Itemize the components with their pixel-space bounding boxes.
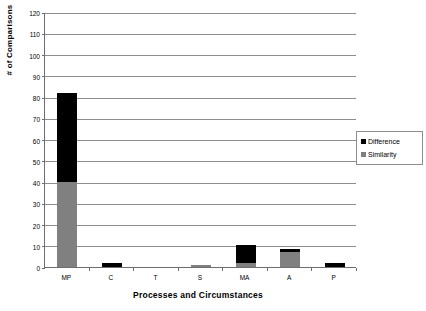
x-axis-label-s: S	[198, 274, 202, 282]
y-axis-tick-label: 30	[14, 201, 40, 208]
x-axis-tick-mark	[133, 268, 134, 271]
x-axis-label-c: C	[108, 274, 113, 282]
y-axis-tick-mark	[42, 204, 45, 205]
x-axis-tick-mark	[267, 268, 268, 271]
y-axis-tick-label: 110	[14, 31, 40, 38]
bar-segment-difference[interactable]	[57, 93, 77, 182]
bar-segment-similarity[interactable]	[236, 263, 256, 267]
x-axis-title: Processes and Circumstances	[40, 290, 356, 300]
bar-segment-similarity[interactable]	[280, 252, 300, 267]
y-axis-tick-mark	[42, 161, 45, 162]
x-axis-label-p: P	[332, 274, 336, 282]
x-axis-label-a: A	[287, 274, 291, 282]
y-axis-tick-mark	[42, 76, 45, 77]
bar-segment-similarity[interactable]	[57, 182, 77, 267]
legend-swatch-similarity	[361, 152, 366, 157]
bar-p[interactable]	[325, 12, 345, 267]
y-axis-tick-label: 20	[14, 222, 40, 229]
x-axis-label-ma: MA	[240, 274, 250, 282]
bar-ma[interactable]	[236, 12, 256, 267]
bar-s[interactable]	[191, 12, 211, 267]
legend: Difference Similarity	[356, 131, 423, 165]
bar-a[interactable]	[280, 12, 300, 267]
y-axis-tick-label: 80	[14, 95, 40, 102]
y-axis-tick-mark	[42, 140, 45, 141]
y-axis-tick-mark	[42, 183, 45, 184]
y-axis-tick-mark	[42, 55, 45, 56]
x-axis-label-mp: MP	[61, 274, 71, 282]
x-axis-tick-mark	[89, 268, 90, 271]
y-axis-tick-label: 50	[14, 158, 40, 165]
x-axis-tick-marks	[44, 268, 356, 272]
legend-item-similarity: Similarity	[361, 149, 419, 160]
y-axis-tick-mark	[42, 225, 45, 226]
bar-segment-difference[interactable]	[236, 245, 256, 263]
legend-item-difference: Difference	[361, 136, 419, 147]
y-axis-tick-mark	[42, 119, 45, 120]
bar-segment-difference[interactable]	[280, 249, 300, 252]
x-axis-category-labels: MPCTSMAAP	[44, 274, 356, 284]
y-axis-tick-label: 10	[14, 243, 40, 250]
bar-mp[interactable]	[57, 12, 77, 267]
x-axis-tick-mark	[178, 268, 179, 271]
x-axis-label-t: T	[153, 274, 157, 282]
y-axis-tick-label: 90	[14, 73, 40, 80]
y-axis-tick-label: 120	[14, 10, 40, 17]
y-axis-tick-mark	[42, 246, 45, 247]
bar-t[interactable]	[146, 12, 166, 267]
y-axis-tick-label: 70	[14, 116, 40, 123]
x-axis-tick-mark	[222, 268, 223, 271]
legend-label-difference: Difference	[368, 138, 400, 146]
plot-area	[44, 13, 356, 268]
y-axis-tick-label: 40	[14, 180, 40, 187]
bar-c[interactable]	[102, 12, 122, 267]
bar-segment-difference[interactable]	[102, 263, 122, 267]
x-axis-tick-mark	[356, 268, 357, 271]
y-axis-tick-labels: 0102030405060708090100110120	[12, 13, 40, 268]
legend-swatch-difference	[361, 139, 366, 144]
y-axis-tick-label: 0	[14, 265, 40, 272]
y-axis-tick-label: 100	[14, 52, 40, 59]
y-axis-tick-mark	[42, 13, 45, 14]
legend-label-similarity: Similarity	[368, 151, 396, 159]
y-axis-tick-label: 60	[14, 137, 40, 144]
bar-segment-difference[interactable]	[325, 263, 345, 267]
chart-container: # of Comparisons 01020304050607080901001…	[0, 0, 426, 311]
y-axis-tick-mark	[42, 34, 45, 35]
y-axis-tick-mark	[42, 98, 45, 99]
x-axis-tick-mark	[311, 268, 312, 271]
bar-segment-similarity[interactable]	[191, 265, 211, 267]
